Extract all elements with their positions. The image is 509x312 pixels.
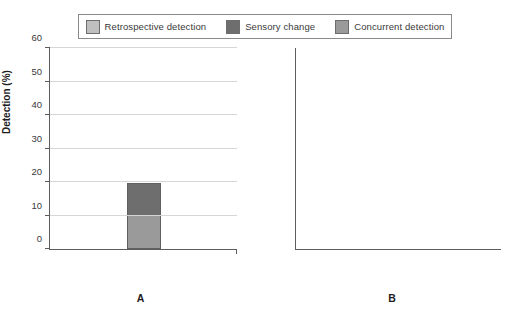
y-tick-label: 50	[31, 65, 42, 76]
y-tick-label: 60	[31, 32, 42, 43]
y-tick-mark	[45, 148, 50, 149]
y-tick-label: 20	[31, 166, 42, 177]
legend-label-retrospective: Retrospective detection	[105, 21, 207, 32]
panel-b: B	[249, 46, 507, 296]
legend-item-concurrent: Concurrent detection	[335, 20, 444, 34]
legend-swatch-concurrent	[335, 20, 349, 34]
legend-swatch-retrospective	[86, 20, 100, 34]
plot-area-b	[295, 48, 501, 250]
y-tick-mark	[45, 114, 50, 115]
panel-a: Detection (%) 0102030405060 A	[2, 46, 245, 296]
y-tick-label: 30	[31, 132, 42, 143]
y-tick-label: 40	[31, 99, 42, 110]
gridline	[50, 114, 237, 115]
panel-tag-a: A	[2, 292, 245, 304]
legend-item-retrospective: Retrospective detection	[86, 20, 207, 34]
gridline	[50, 81, 237, 82]
legend-item-sensory: Sensory change	[226, 20, 315, 34]
y-tick-mark	[45, 215, 50, 216]
y-tick-mark	[45, 181, 50, 182]
legend-label-sensory: Sensory change	[245, 21, 315, 32]
legend-label-concurrent: Concurrent detection	[354, 21, 444, 32]
gridline	[50, 148, 237, 149]
stacked-bar[interactable]	[127, 184, 161, 249]
y-tick-label: 10	[31, 199, 42, 210]
y-tick-mark	[45, 81, 50, 82]
x-tick-mark	[236, 249, 237, 254]
gridline	[50, 181, 237, 182]
gridline	[50, 47, 237, 48]
gridline	[50, 215, 237, 216]
legend-swatch-sensory	[226, 20, 240, 34]
bar-group-b	[296, 48, 501, 249]
y-tick-label: 0	[37, 233, 42, 244]
chart-legend: Retrospective detection Sensory change C…	[78, 14, 452, 39]
y-tick-mark	[45, 248, 50, 249]
plot-area-a: 0102030405060	[49, 48, 237, 250]
bar-segment	[127, 215, 161, 249]
stacked-bar-figure: Retrospective detection Sensory change C…	[0, 0, 509, 312]
panel-tag-b: B	[249, 292, 507, 304]
bar-group-a	[50, 48, 237, 249]
bar-segment	[127, 183, 161, 217]
y-tick-mark	[45, 47, 50, 48]
bar-slot	[50, 48, 237, 249]
y-axis-label: Detection (%)	[1, 70, 12, 134]
